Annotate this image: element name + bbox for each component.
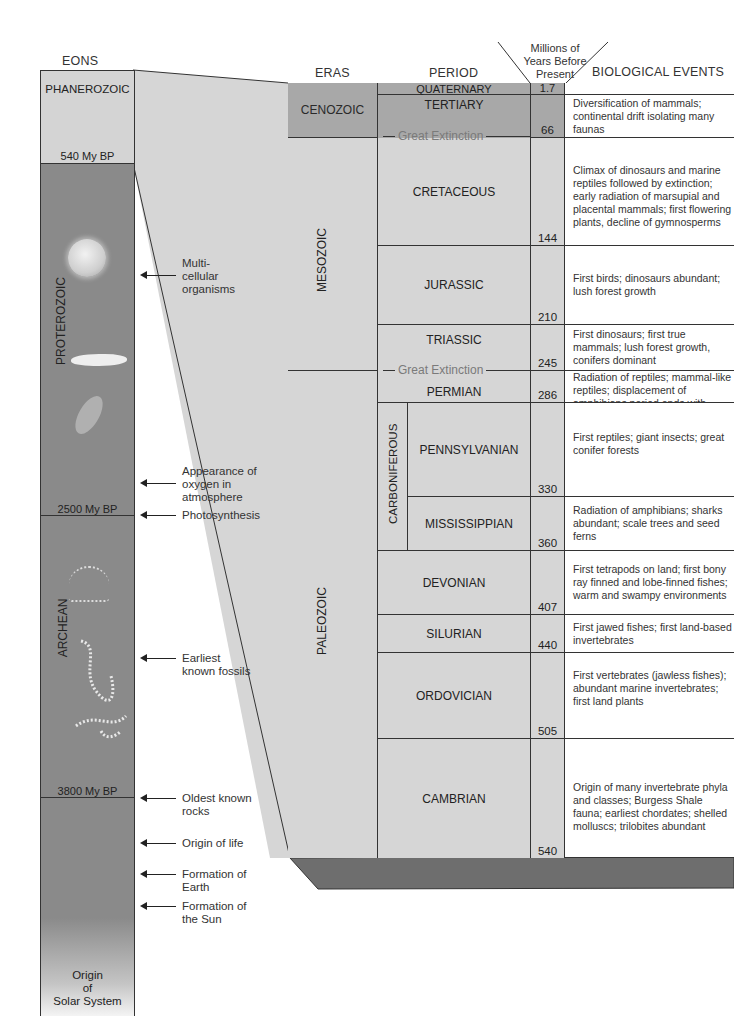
- period-label: QUATERNARY: [416, 83, 491, 95]
- events-text: First vertebrates (jawless fishes); abun…: [573, 669, 732, 708]
- annotation-line: rocks: [182, 805, 252, 818]
- events-cretaceous: Climax of dinosaurs and marine reptiles …: [565, 138, 734, 246]
- events-text: Climax of dinosaurs and marine reptiles …: [573, 164, 732, 229]
- eon-archean: ARCHEAN 3800 My BP: [40, 515, 135, 798]
- events-text: Radiation of amphibians; sharks abundant…: [573, 504, 732, 543]
- annotation-formation-earth: Formation of Earth: [140, 868, 247, 894]
- extinction-rule: [383, 136, 395, 137]
- mya-value: 1.7: [540, 82, 555, 94]
- events-text: Radiation of reptiles; mammal-like repti…: [573, 371, 732, 403]
- annotation-line: the Sun: [182, 913, 247, 926]
- years-mississippian: 360: [530, 497, 565, 551]
- mya-value: 210: [538, 311, 557, 323]
- period-ordovician: ORDOVICIAN: [378, 653, 530, 739]
- annotation-line: Origin of life: [182, 837, 243, 850]
- period-label: CAMBRIAN: [422, 792, 485, 806]
- period-label: CRETACEOUS: [413, 185, 495, 199]
- carboniferous-label: CARBONIFEROUS: [387, 424, 399, 524]
- extinction-rule: [486, 136, 530, 137]
- left-arrow-icon: [140, 653, 176, 663]
- mya-value: 66: [541, 124, 554, 136]
- years-devonian: 407: [530, 551, 565, 615]
- events-mississippian: Radiation of amphibians; sharks abundant…: [565, 497, 734, 551]
- annotation-line: Appearance of: [182, 465, 257, 478]
- annotation-earliest-fossils: Earliest known fossils: [140, 652, 250, 678]
- events-jurassic: First birds; dinosaurs abundant; lush fo…: [565, 246, 734, 325]
- years-ordovician: 505: [530, 653, 565, 739]
- events-quaternary: [565, 83, 734, 95]
- events-devonian: First tetrapods on land; first bony ray …: [565, 551, 734, 615]
- great-extinction-label-mesozoic: Great Extinction: [383, 363, 530, 377]
- annotation-line: Photosynthesis: [182, 509, 260, 522]
- events-text: First dinosaurs; first true mammals; lus…: [573, 328, 732, 367]
- period-label: SILURIAN: [426, 627, 481, 641]
- filament-fossil-icon: [71, 636, 131, 746]
- left-arrow-icon: [140, 793, 176, 803]
- events-text: First birds; dinosaurs abundant; lush fo…: [573, 272, 732, 298]
- annotation-line: Earliest: [182, 652, 250, 665]
- period-mississippian: MISSISSIPPIAN: [408, 497, 530, 551]
- annotation-line: atmosphere: [182, 491, 257, 504]
- period-pennsylvanian: PENNSYLVANIAN: [408, 403, 530, 497]
- annotation-line: Multi-: [182, 257, 235, 270]
- period-label: JURASSIC: [424, 278, 483, 292]
- years-tertiary: 66: [530, 95, 565, 138]
- period-label: TRIASSIC: [426, 333, 481, 347]
- events-text: Diversification of mammals; continental …: [573, 97, 732, 136]
- eon-proterozoic: PROTEROZOIC 2500 My BP: [40, 163, 135, 516]
- annotation-line: Earth: [182, 881, 247, 894]
- mya-value: 440: [538, 639, 557, 651]
- eon-label: PHANEROZOIC: [41, 83, 134, 95]
- period-label: TERTIARY: [425, 98, 484, 112]
- period-devonian: DEVONIAN: [378, 551, 530, 615]
- events-silurian: First jawed fishes; first land-based inv…: [565, 615, 734, 653]
- era-label: MESOZOIC: [315, 220, 329, 300]
- stromatolite-fossil-icon: [69, 566, 109, 602]
- era-cenozoic: CENOZOIC: [288, 83, 378, 138]
- annotation-oldest-rocks: Oldest known rocks: [140, 792, 252, 818]
- eon-boundary-label: 2500 My BP: [41, 503, 134, 515]
- origin-line-3: Solar System: [41, 995, 134, 1008]
- period-quaternary: QUATERNARY: [378, 83, 530, 95]
- period-label: MISSISSIPPIAN: [425, 517, 513, 531]
- eon-boundary-label: 540 My BP: [41, 150, 134, 162]
- annotation-formation-sun: Formation of the Sun: [140, 900, 247, 926]
- mya-value: 505: [538, 725, 557, 737]
- extinction-rule: [383, 370, 395, 371]
- mya-value: 407: [538, 601, 557, 613]
- protist-organism-icon: [70, 392, 108, 438]
- spiky-sphere-organism-icon: [68, 239, 106, 277]
- left-arrow-icon: [140, 270, 176, 280]
- years-quaternary: 1.7: [530, 83, 565, 95]
- great-extinction-label-cenozoic: Great Extinction: [383, 129, 530, 143]
- annotation-line: Formation of: [182, 900, 247, 913]
- annotation-line: oxygen in: [182, 478, 257, 491]
- eon-phanerozoic: PHANEROZOIC 540 My BP: [40, 70, 135, 164]
- events-text: First reptiles; giant insects; great con…: [573, 431, 732, 457]
- mya-value: 330: [538, 483, 557, 495]
- mya-value: 286: [538, 389, 557, 401]
- events-text: Origin of many invertebrate phyla and cl…: [573, 781, 732, 833]
- origin-solar-system-label: Origin of Solar System: [41, 969, 134, 1008]
- annotation-line: Formation of: [182, 868, 247, 881]
- years-pennsylvanian: 330: [530, 403, 565, 497]
- years-silurian: 440: [530, 615, 565, 653]
- eon-boundary-label: 3800 My BP: [41, 785, 134, 797]
- events-text: First tetrapods on land; first bony ray …: [573, 563, 732, 602]
- period-silurian: SILURIAN: [378, 615, 530, 653]
- events-pennsylvanian: First reptiles; giant insects; great con…: [565, 403, 734, 497]
- extinction-rule: [486, 370, 530, 371]
- era-label: PALEOZOIC: [315, 581, 329, 661]
- years-cambrian: 540: [530, 739, 565, 858]
- left-arrow-icon: [140, 901, 176, 911]
- carboniferous-group: CARBONIFEROUS: [378, 403, 408, 551]
- annotation-line: Oldest known: [182, 792, 252, 805]
- mya-value: 245: [538, 357, 557, 369]
- period-jurassic: JURASSIC: [378, 246, 530, 325]
- years-jurassic: 210: [530, 246, 565, 325]
- mya-value: 144: [538, 232, 557, 244]
- origin-line-1: Origin: [41, 969, 134, 982]
- period-label: PENNSYLVANIAN: [420, 443, 519, 457]
- era-label: CENOZOIC: [301, 103, 364, 117]
- era-paleozoic: PALEOZOIC: [288, 371, 378, 858]
